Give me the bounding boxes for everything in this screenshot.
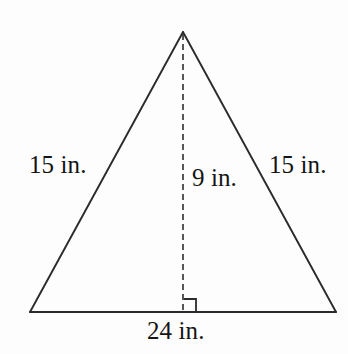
geometry-figure: 15 in. 15 in. 9 in. 24 in.	[0, 0, 348, 354]
altitude-length-label: 9 in.	[192, 165, 237, 190]
left-leg-length-label: 15 in.	[29, 152, 87, 177]
right-leg-length-label: 15 in.	[269, 152, 327, 177]
base-length-label: 24 in.	[147, 318, 205, 343]
